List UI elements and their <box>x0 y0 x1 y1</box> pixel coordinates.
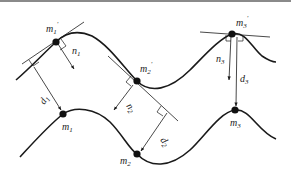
distance-arrow-d3 <box>236 37 237 106</box>
label-n1: n1 <box>72 45 81 58</box>
point-m1 <box>59 110 66 117</box>
label-m2: m2 <box>120 155 131 168</box>
label-m3: m3 <box>230 117 241 130</box>
right-angle-mark-d3 <box>238 36 243 41</box>
point-m1p <box>52 38 59 45</box>
label-m1p: m1′ <box>46 20 59 36</box>
lower-curve <box>20 109 276 164</box>
point-m2 <box>133 150 140 157</box>
right-angle-mark-n2 <box>126 76 131 86</box>
normal-arrow-n3 <box>229 36 231 80</box>
label-d3: d3 <box>240 73 249 86</box>
label-d2: d2 <box>157 135 173 150</box>
label-m3p: m3′ <box>236 14 249 30</box>
point-m3 <box>231 106 238 113</box>
label-d1: d1 <box>37 93 53 107</box>
label-m1: m1 <box>62 121 73 134</box>
label-n2: n2 <box>123 101 139 116</box>
diagram-svg: m1′ m2′ m3′ m1 m2 m3 n1 n2 n3 d1 d2 d3 <box>0 0 291 177</box>
point-m2p <box>133 77 140 84</box>
label-m2p: m2′ <box>140 60 153 76</box>
diagram-canvas: m1′ m2′ m3′ m1 m2 m3 n1 n2 n3 d1 d2 d3 <box>0 0 291 177</box>
label-n3: n3 <box>216 53 225 66</box>
right-angle-mark-d2 <box>157 106 163 116</box>
point-m3p <box>228 30 235 37</box>
